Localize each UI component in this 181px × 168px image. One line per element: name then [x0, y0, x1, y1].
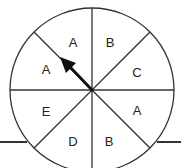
spinner-diagram: A B A C E A D B — [0, 0, 181, 168]
section-label: A — [69, 35, 78, 50]
section-label: A — [133, 103, 142, 118]
spinner-pivot — [91, 89, 94, 92]
section-label: A — [42, 62, 51, 77]
arrow-shaft — [70, 67, 92, 90]
section-label: B — [105, 134, 114, 149]
section-label: C — [132, 65, 141, 80]
section-label: D — [68, 134, 77, 149]
spinner-arrow[interactable] — [60, 57, 92, 90]
section-label: E — [42, 104, 51, 119]
section-label: B — [106, 35, 115, 50]
